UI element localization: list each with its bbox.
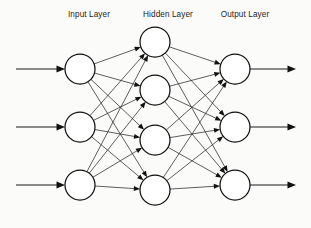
edge-arrowhead-hidden-2-to-output-1 — [214, 128, 221, 133]
edge-arrowhead-input-2-to-hidden-2 — [136, 148, 143, 153]
edge-arrowhead-hidden-3-to-output-0 — [221, 82, 227, 89]
edge-input-0-to-hidden-3 — [88, 82, 145, 174]
edge-arrowhead-hidden-3-to-output-2 — [214, 184, 220, 189]
neuron-node-hidden-1 — [140, 75, 170, 105]
neuron-node-input-0 — [65, 54, 95, 84]
input-arrowhead-1 — [57, 123, 66, 130]
neuron-node-hidden-3 — [140, 175, 170, 205]
edge-arrowhead-input-0-to-hidden-1 — [134, 82, 141, 87]
edge-input-2-to-hidden-0 — [87, 59, 146, 171]
layer-labels-group: Input LayerHidden LayerOutput Layer — [68, 10, 269, 19]
output-arrowhead-1 — [288, 123, 297, 130]
edge-arrowhead-input-1-to-hidden-1 — [135, 97, 142, 102]
edge-hidden-2-to-output-1 — [170, 130, 216, 137]
edge-arrowhead-input-1-to-hidden-2 — [134, 134, 141, 139]
neuron-node-output-1 — [220, 112, 250, 142]
neuron-nodes-group — [65, 27, 250, 205]
input-arrowhead-2 — [57, 181, 66, 188]
edge-input-2-to-hidden-3 — [95, 186, 136, 189]
neuron-node-input-2 — [65, 170, 95, 200]
edge-arrowhead-hidden-0-to-output-0 — [214, 60, 221, 65]
output-arrowhead-0 — [288, 65, 297, 72]
edge-arrowhead-input-2-to-hidden-1 — [140, 102, 146, 108]
edge-hidden-2-to-output-2 — [168, 147, 218, 175]
edge-arrowhead-hidden-2-to-output-2 — [215, 172, 222, 177]
output-arrowhead-2 — [288, 181, 297, 188]
edge-arrowhead-input-0-to-hidden-3 — [142, 171, 147, 178]
edge-arrowhead-hidden-3-to-output-1 — [217, 136, 223, 142]
edge-input-0-to-hidden-1 — [94, 73, 136, 85]
edge-input-1-to-hidden-3 — [91, 137, 140, 178]
neuron-node-hidden-2 — [140, 125, 170, 155]
edge-hidden-1-to-output-1 — [169, 96, 218, 119]
edge-input-0-to-hidden-0 — [94, 49, 137, 64]
edge-hidden-0-to-output-2 — [162, 55, 225, 168]
neuron-node-output-0 — [220, 54, 250, 84]
input-arrowhead-0 — [57, 65, 66, 72]
edge-hidden-0-to-output-0 — [169, 47, 216, 63]
edge-hidden-2-to-output-0 — [166, 82, 220, 130]
neural-network-canvas: Input LayerHidden LayerOutput Layer — [0, 0, 311, 228]
edge-hidden-3-to-output-2 — [170, 186, 216, 189]
edge-arrowhead-input-0-to-hidden-0 — [134, 47, 141, 52]
edge-arrowhead-hidden-1-to-output-0 — [214, 72, 221, 77]
neuron-node-input-1 — [65, 112, 95, 142]
edge-input-1-to-hidden-2 — [95, 130, 136, 137]
connection-edges-group — [87, 47, 228, 191]
edge-arrowhead-hidden-1-to-output-1 — [215, 116, 222, 121]
layer-label-hidden: Hidden Layer — [143, 10, 193, 19]
neuron-node-hidden-0 — [140, 27, 170, 57]
edge-input-2-to-hidden-2 — [93, 150, 138, 177]
neural-network-diagram: Input LayerHidden LayerOutput Layer — [0, 0, 311, 228]
layer-label-output: Output Layer — [221, 10, 270, 19]
layer-label-input: Input Layer — [68, 10, 110, 19]
edge-arrowhead-input-2-to-hidden-3 — [134, 186, 140, 191]
neuron-node-output-2 — [220, 170, 250, 200]
